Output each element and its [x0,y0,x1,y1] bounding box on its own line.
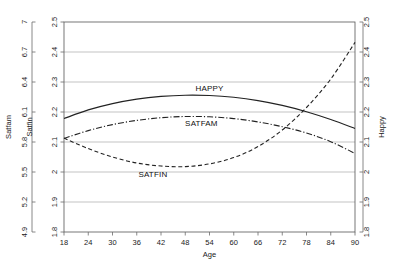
happy-axis-title: Happy [377,116,386,138]
age-tick-label: 36 [133,238,141,247]
satfin-tick-label: 2 [50,170,59,174]
happy-tick-label: 1.9 [362,197,371,207]
chart-background [0,0,394,276]
age-tick-label: 60 [230,238,238,247]
age-tick-label: 42 [157,238,165,247]
age-tick-label: 84 [327,238,335,247]
satfam-tick-label: 5.8 [20,137,29,147]
series-label-satfam: SATFAM [185,119,218,128]
age-tick-label: 24 [84,238,92,247]
age-tick-label: 48 [181,238,189,247]
age-axis-title: Age [203,250,216,259]
age-tick-label: 78 [302,238,310,247]
satfam-tick-label: 6.4 [20,77,29,87]
satfin-tick-label: 2.3 [50,77,59,87]
happy-tick-label: 2.2 [362,107,371,117]
satfin-tick-label: 1.8 [50,227,59,237]
satfam-tick-label: 6.7 [20,47,29,57]
satfam-tick-label: 4.9 [20,227,29,237]
satisfaction-age-line-chart: 4.95.25.55.86.16.46.77 1.81.922.12.22.32… [0,0,394,276]
satfin-tick-label: 2.2 [50,107,59,117]
series-label-happy: HAPPY [195,84,224,93]
happy-tick-label: 2.3 [362,77,371,87]
satfam-tick-label: 6.1 [20,107,29,117]
satfin-tick-label: 2.4 [50,47,59,57]
chart-container: 4.95.25.55.86.16.46.77 1.81.922.12.22.32… [0,0,394,276]
age-tick-label: 30 [108,238,116,247]
happy-tick-label: 2.1 [362,137,371,147]
satfam-tick-label: 5.2 [20,197,29,207]
age-tick-label: 18 [60,238,68,247]
satfam-axis-title: Satfam [4,115,13,139]
satfam-tick-label: 5.5 [20,167,29,177]
series-label-satfin: SATFIN [138,170,167,179]
age-tick-label: 72 [278,238,286,247]
happy-tick-label: 1.8 [362,227,371,237]
satfin-axis-title: Satfin [25,117,34,136]
age-tick-label: 66 [254,238,262,247]
satfin-tick-label: 1.9 [50,197,59,207]
satfam-tick-label: 7 [20,20,29,24]
happy-tick-label: 2 [362,170,371,174]
happy-tick-label: 2.4 [362,47,371,57]
age-tick-label: 90 [351,238,359,247]
satfin-tick-label: 2.1 [50,137,59,147]
happy-tick-label: 2.5 [362,17,371,27]
satfin-tick-label: 2.5 [50,17,59,27]
age-tick-label: 54 [205,238,213,247]
